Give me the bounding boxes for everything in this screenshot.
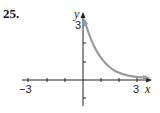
curve <box>85 22 146 78</box>
graph: −3 3 x y 3 <box>0 0 160 113</box>
x-axis-label: x <box>144 82 151 96</box>
x-tick-label-3: 3 <box>133 83 139 95</box>
x-tick-label-neg3: −3 <box>19 83 32 95</box>
y-tick-label-3: 3 <box>75 19 81 31</box>
y-axis-arrow-icon <box>81 12 86 18</box>
